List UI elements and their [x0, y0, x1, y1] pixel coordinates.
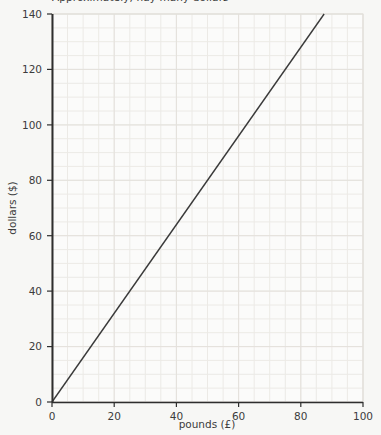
y-tick-label: 40 — [29, 285, 42, 297]
y-axis-title: dollars ($) — [6, 181, 18, 234]
chart-container: Approximately, hay many dollars 02040608… — [0, 0, 381, 435]
x-tick-label: 0 — [49, 410, 56, 422]
y-tick-label: 20 — [29, 340, 42, 352]
y-tick-label: 100 — [22, 119, 42, 131]
line-chart-plot: 020406080100 020406080100120140 pounds (… — [0, 0, 381, 435]
x-axis-title: pounds (£) — [179, 418, 236, 430]
y-tick-label: 60 — [29, 230, 42, 242]
x-tick-label: 100 — [353, 410, 373, 422]
y-tick-label: 120 — [22, 63, 42, 75]
y-axis-tick-labels: 020406080100120140 — [22, 8, 42, 408]
x-tick-label: 20 — [108, 410, 121, 422]
y-tick-label: 0 — [35, 396, 42, 408]
y-tick-label: 140 — [22, 8, 42, 20]
y-axis-ticks — [47, 14, 52, 402]
x-tick-label: 80 — [294, 410, 307, 422]
y-tick-label: 80 — [29, 174, 42, 186]
